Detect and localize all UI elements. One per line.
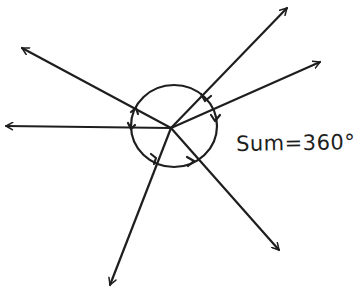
arc-arrow-5 [151,154,156,164]
arc-arrow-6 [187,157,194,166]
ray-upper-left [22,48,171,128]
ray-right [171,62,320,128]
sum-annotation: Sum=360° [236,130,355,156]
ray-left [6,126,171,128]
ray-upper-right [171,8,287,128]
